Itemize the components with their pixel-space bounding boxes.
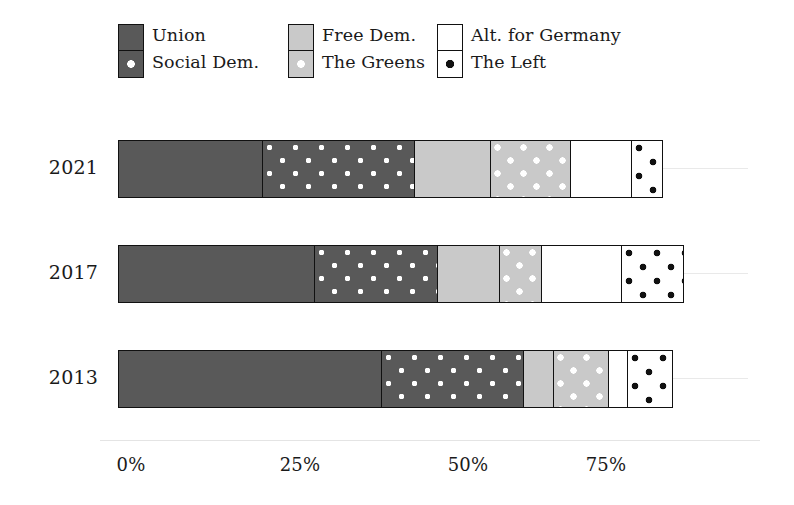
bar-segment-union-2013 <box>119 351 382 407</box>
legend-swatch-fdp-greens <box>288 24 314 78</box>
bar-segment-union-2017 <box>119 246 315 302</box>
legend-swatch-union <box>119 25 143 51</box>
legend-swatch-free-dem <box>289 25 313 51</box>
legend-labels-afd-left: Alt. for Germany The Left <box>471 22 621 76</box>
election-stacked-bar-chart: Union Social Dem. Free Dem. The Greens A… <box>0 0 794 505</box>
y-tick-label-2017: 2017 <box>12 261 98 283</box>
legend-swatch-social-dem <box>119 51 143 77</box>
legend-label-free-dem: Free Dem. <box>322 22 425 49</box>
bar-segment-greens-2013 <box>554 351 608 407</box>
x-tick-label-0: 0% <box>117 454 146 475</box>
legend-label-alt-for-germany: Alt. for Germany <box>471 22 621 49</box>
legend-swatch-alt-for-germany <box>438 25 462 51</box>
legend-swatch-union-spd <box>118 24 144 78</box>
x-axis-rule <box>100 440 760 441</box>
legend-labels-union-spd: Union Social Dem. <box>152 22 259 76</box>
y-tick-label-2013: 2013 <box>12 366 98 388</box>
chart-legend: Union Social Dem. Free Dem. The Greens A… <box>0 22 794 84</box>
bar-segment-fdp-2021 <box>415 141 491 197</box>
bar-segment-afd-2021 <box>571 141 632 197</box>
bar-segment-spd-2021 <box>263 141 415 197</box>
bar-segment-left-2021 <box>632 141 662 197</box>
bar-segment-fdp-2017 <box>438 246 500 302</box>
legend-labels-fdp-greens: Free Dem. The Greens <box>322 22 425 76</box>
bar-segment-spd-2017 <box>315 246 438 302</box>
bar-2021 <box>118 140 663 198</box>
legend-label-the-left: The Left <box>471 49 621 76</box>
legend-label-the-greens: The Greens <box>322 49 425 76</box>
plot-area: 2021 2017 2013 <box>0 110 794 450</box>
x-tick-label-25: 25% <box>280 454 321 475</box>
x-tick-label-75: 75% <box>586 454 627 475</box>
x-axis: 0% 25% 50% 75% <box>0 440 794 490</box>
bar-segment-fdp-2013 <box>524 351 554 407</box>
bar-2013 <box>118 350 673 408</box>
bar-segment-union-2021 <box>119 141 263 197</box>
legend-swatch-afd-left <box>437 24 463 78</box>
bar-segment-greens-2017 <box>500 246 542 302</box>
bar-segment-left-2013 <box>628 351 672 407</box>
bar-segment-spd-2013 <box>382 351 525 407</box>
bar-segment-left-2017 <box>622 246 683 302</box>
bar-2017 <box>118 245 684 303</box>
x-tick-label-50: 50% <box>448 454 489 475</box>
bar-segment-afd-2017 <box>542 246 622 302</box>
bar-segment-greens-2021 <box>491 141 571 197</box>
bar-segment-afd-2013 <box>609 351 628 407</box>
legend-swatch-the-greens <box>289 51 313 77</box>
legend-swatch-the-left <box>438 51 462 77</box>
y-tick-label-2021: 2021 <box>12 156 98 178</box>
legend-label-union: Union <box>152 22 259 49</box>
legend-label-social-dem: Social Dem. <box>152 49 259 76</box>
